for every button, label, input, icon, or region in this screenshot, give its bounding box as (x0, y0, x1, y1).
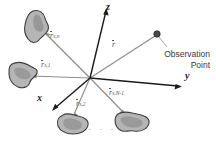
ellipsis-more-scatterers: · · · (88, 124, 117, 134)
scatterer-body-2 (57, 114, 88, 134)
scatterer-body-1 (9, 63, 37, 88)
vector-label-r-s-n: rs,n (50, 32, 59, 40)
observation-point-label-line1: Observation (148, 49, 210, 60)
scatterer-body-n (25, 10, 49, 42)
axis-label-z: z (106, 2, 110, 12)
scattering-bodies (9, 10, 149, 134)
diagram-canvas: z y x rs,n rs,1 r rs,2 rs,N-1 Observatio… (0, 0, 216, 146)
axis-arrowhead-y (175, 84, 182, 89)
vector-symbol-r-s-N-1: r (109, 89, 112, 97)
axis-arrowhead-x (52, 104, 58, 111)
vector-label-r-s-1: rs,1 (41, 61, 50, 69)
vector-symbol-r: r (112, 41, 115, 49)
vector-line-to-scatterer-1 (30, 76, 90, 78)
position-vector-lines (30, 32, 155, 119)
vector-subscript-r-s-n: s,n (53, 33, 59, 39)
observation-point-dot (154, 31, 160, 37)
axis-line-z (90, 11, 106, 78)
vector-symbol-r-s-n: r (50, 32, 53, 40)
scatterer-body-N-1 (115, 112, 149, 131)
axis-line-y (90, 78, 178, 86)
observation-point-label: Observation Point (148, 49, 210, 70)
vector-symbol-r-s-2: r (76, 100, 79, 108)
axis-label-y: y (185, 71, 189, 81)
vector-label-r-s-N-1: rs,N-1 (109, 89, 124, 97)
vector-line-to-observation-point (90, 36, 155, 78)
vector-label-r-s-2: rs,2 (76, 100, 85, 108)
observation-point-group (154, 31, 167, 47)
vector-subscript-r-s-N-1: s,N-1 (112, 90, 124, 96)
vector-label-r-observation: r (112, 41, 115, 49)
observation-point-leader-line (159, 37, 167, 47)
vector-subscript-r-s-1: s,1 (44, 62, 50, 68)
vector-symbol-r-s-1: r (41, 61, 44, 69)
axis-label-x: x (37, 93, 42, 103)
vector-subscript-r-s-2: s,2 (79, 101, 85, 107)
observation-point-label-line2: Point (148, 60, 210, 71)
